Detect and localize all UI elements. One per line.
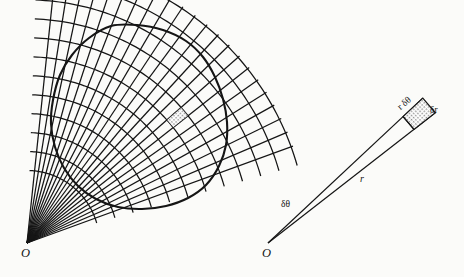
figure-canvas: O O r δθ r δθ δr <box>0 0 464 277</box>
delta-theta-label: δθ <box>281 200 290 210</box>
radial-grid-line <box>27 105 274 243</box>
figure-vector-graphics <box>0 0 464 277</box>
radius-label: r <box>360 174 364 184</box>
right-panel-group <box>268 98 435 243</box>
radial-grid-line <box>27 45 229 243</box>
radial-grid-line <box>27 56 240 243</box>
wedge-upper-ray <box>268 98 423 243</box>
right-origin-label: O <box>262 247 271 260</box>
left-origin-label: O <box>21 247 30 260</box>
radial-grid-line <box>27 132 287 243</box>
delta-r-label: δr <box>430 106 438 116</box>
wedge-lower-ray <box>268 113 435 243</box>
left-panel-group <box>27 0 297 243</box>
